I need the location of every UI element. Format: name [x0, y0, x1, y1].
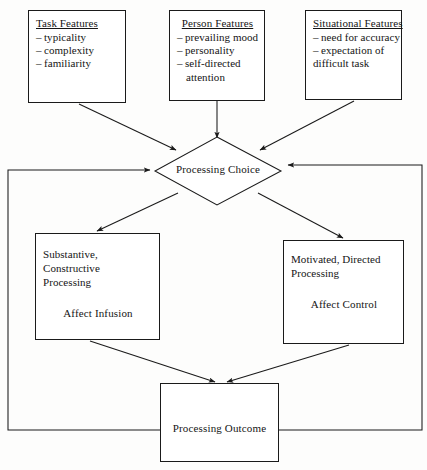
list-item: –personality: [177, 44, 258, 57]
processing-outcome-label: Processing Outcome: [161, 422, 278, 434]
list-item: –complexity: [36, 44, 119, 57]
processing-choice-label: Processing Choice: [155, 163, 281, 175]
connector-substantive-to-outcome: [90, 341, 215, 382]
connector-situational-to-choice: [260, 101, 354, 150]
list-item: –expectation of: [313, 44, 395, 57]
situational-features-title: Situational Features: [313, 17, 395, 30]
motivated-processing-line2: Processing: [291, 266, 397, 280]
task-features-list: –typicality –complexity –familiarity: [36, 31, 119, 71]
affect-control-label: Affect Control: [291, 297, 397, 311]
task-features-title: Task Features: [36, 17, 119, 30]
affect-infusion-label: Affect Infusion: [43, 306, 153, 320]
connector-choice-to-substantive: [97, 193, 178, 231]
diagram-canvas: Task Features –typicality –complexity –f…: [0, 0, 427, 470]
list-item-continuation: difficult task: [313, 57, 395, 70]
task-features-box: Task Features –typicality –complexity –f…: [28, 10, 126, 103]
connector-choice-to-motivated: [258, 193, 343, 238]
situational-features-box: Situational Features –need for accuracy …: [305, 10, 402, 100]
person-features-box: Person Features –prevailing mood –person…: [169, 10, 265, 101]
situational-features-list: –need for accuracy –expectation of diffi…: [313, 31, 395, 71]
list-item: –familiarity: [36, 57, 119, 70]
connector-motivated-to-outcome: [227, 345, 349, 382]
substantive-processing-line2: Processing: [43, 275, 153, 289]
list-item-continuation: attention: [177, 71, 258, 84]
substantive-processing-line1: Substantive, Constructive: [43, 247, 153, 275]
substantive-processing-box: Substantive, Constructive Processing Aff…: [35, 233, 160, 340]
list-item: –need for accuracy: [313, 31, 395, 44]
person-features-list: –prevailing mood –personality –self-dire…: [177, 31, 258, 84]
connector-task-to-choice: [79, 104, 176, 150]
motivated-processing-line1: Motivated, Directed: [291, 252, 397, 266]
list-item: –typicality: [36, 31, 119, 44]
processing-outcome-box: Processing Outcome: [160, 383, 279, 462]
motivated-processing-box: Motivated, Directed Processing Affect Co…: [283, 240, 404, 344]
list-item: –prevailing mood: [177, 31, 258, 44]
person-features-title: Person Features: [177, 17, 258, 30]
list-item: –self-directed: [177, 57, 258, 70]
